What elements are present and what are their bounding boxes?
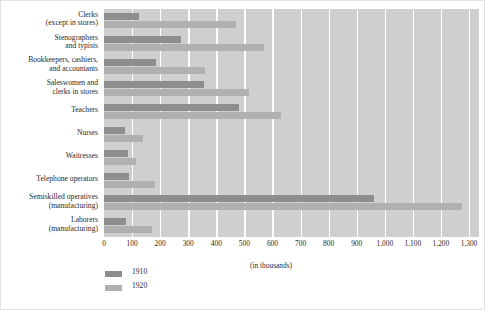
bar-1920: [104, 44, 264, 51]
category-label: Telephone operators: [1, 175, 98, 184]
bar-1910: [104, 218, 126, 225]
x-axis-tick-label: 200: [155, 239, 166, 248]
category-label: Waitresses: [1, 152, 98, 161]
bar-1910: [104, 195, 374, 202]
category-label: Teachers: [1, 106, 98, 115]
legend-item-1920[interactable]: 1920: [105, 281, 225, 295]
chart-figure: Clerks (except in stores)Stenographers a…: [0, 0, 485, 310]
bar-1920: [104, 21, 236, 28]
category-label: Saleswomen and clerks in stores: [1, 79, 98, 96]
x-axis-tick-label: 1,300: [461, 239, 478, 248]
x-axis: 01002003004005006007008009001,0001,1001,…: [104, 239, 479, 253]
bar-1910: [104, 104, 239, 111]
x-axis-tick-label: 500: [239, 239, 250, 248]
chart-legend: 1910 1920: [105, 267, 225, 295]
bar-1920: [104, 203, 462, 210]
bar-1920: [104, 89, 249, 96]
category-label: Clerks (except in stores): [1, 11, 98, 28]
bar-1920: [104, 158, 136, 165]
bar-1910: [104, 150, 128, 157]
bar-1920: [104, 67, 205, 74]
gridline: [469, 9, 470, 237]
bar-1920: [104, 135, 143, 142]
x-axis-tick-label: 100: [127, 239, 138, 248]
bar-1920: [104, 226, 152, 233]
x-axis-tick-label: 600: [267, 239, 278, 248]
category-label: Stenographers and typists: [1, 34, 98, 51]
category-label: Bookkeepers, cashiers, and accountants: [1, 56, 98, 73]
legend-label-1920: 1920: [132, 281, 147, 290]
bar-1910: [104, 59, 156, 66]
category-label: Laborers (manufacturing): [1, 216, 98, 233]
plot-area: [104, 9, 479, 237]
legend-item-1910[interactable]: 1910: [105, 267, 225, 281]
bar-1920: [104, 181, 155, 188]
x-axis-tick-label: 800: [323, 239, 334, 248]
x-axis-tick-label: 1,000: [376, 239, 393, 248]
bar-1910: [104, 81, 204, 88]
bar-1910: [104, 173, 129, 180]
legend-label-1910: 1910: [132, 267, 147, 276]
category-label: Semiskilled operatives (manufacturing): [1, 193, 98, 210]
bar-1910: [104, 127, 125, 134]
category-label-column: Clerks (except in stores)Stenographers a…: [1, 9, 101, 237]
legend-swatch-1920: [105, 285, 122, 291]
x-axis-tick-label: 300: [183, 239, 194, 248]
x-axis-tick-label: 900: [351, 239, 362, 248]
category-label: Nurses: [1, 129, 98, 138]
bar-1910: [104, 13, 139, 20]
bar-1910: [104, 36, 181, 43]
x-axis-tick-label: 0: [102, 239, 106, 248]
bar-1920: [104, 112, 281, 119]
legend-swatch-1910: [105, 271, 122, 277]
x-axis-tick-label: 700: [295, 239, 306, 248]
x-axis-tick-label: 400: [211, 239, 222, 248]
x-axis-tick-label: 1,200: [433, 239, 450, 248]
x-axis-tick-label: 1,100: [405, 239, 422, 248]
